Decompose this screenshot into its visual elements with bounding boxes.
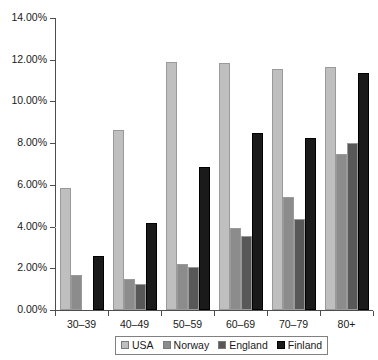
bar xyxy=(336,154,347,310)
legend: USANorwayEnglandFinland xyxy=(115,336,328,355)
y-axis-tick-label: 12.00% xyxy=(3,54,47,65)
plot-area xyxy=(55,18,373,310)
x-axis-tick xyxy=(108,311,109,316)
bar xyxy=(71,275,82,310)
x-axis-tick xyxy=(267,311,268,316)
x-axis-tick-label: 80+ xyxy=(320,318,373,330)
x-axis-tick-label: 70–79 xyxy=(267,318,320,330)
bar xyxy=(230,228,241,310)
y-axis-tick-label: 8.00% xyxy=(3,137,47,148)
bar xyxy=(272,69,283,310)
legend-label: Finland xyxy=(288,339,322,351)
bar xyxy=(347,143,358,310)
bar xyxy=(177,264,188,310)
bar xyxy=(124,279,135,310)
bar xyxy=(325,67,336,310)
legend-label: England xyxy=(229,339,268,351)
legend-item: England xyxy=(218,339,268,351)
bar xyxy=(305,138,316,310)
x-axis-tick xyxy=(320,311,321,316)
bar xyxy=(113,130,124,310)
bar xyxy=(188,267,199,310)
legend-item: Norway xyxy=(163,339,210,351)
x-axis-tick xyxy=(373,311,374,316)
bar-chart: 0.00%2.00%4.00%6.00%8.00%10.00%12.00%14.… xyxy=(0,0,378,360)
x-axis-tick xyxy=(161,311,162,316)
x-axis-tick-label: 50–59 xyxy=(161,318,214,330)
legend-swatch-icon xyxy=(277,341,285,349)
legend-swatch-icon xyxy=(218,341,226,349)
y-axis-tick-label: 6.00% xyxy=(3,179,47,190)
x-axis-tick xyxy=(214,311,215,316)
bar xyxy=(135,284,146,310)
y-axis-tick-label: 4.00% xyxy=(3,221,47,232)
bar xyxy=(252,133,263,310)
bar xyxy=(199,167,210,310)
bar xyxy=(294,219,305,310)
legend-swatch-icon xyxy=(163,341,171,349)
x-axis-tick-label: 30–39 xyxy=(55,318,108,330)
bar xyxy=(283,197,294,310)
legend-item: USA xyxy=(121,339,154,351)
legend-label: USA xyxy=(132,339,154,351)
y-axis-tick-label: 10.00% xyxy=(3,95,47,106)
bar xyxy=(241,236,252,310)
bar xyxy=(146,223,157,310)
bar xyxy=(93,256,104,310)
y-axis-tick-label: 2.00% xyxy=(3,262,47,273)
bar xyxy=(60,188,71,310)
x-axis-tick-label: 60–69 xyxy=(214,318,267,330)
legend-label: Norway xyxy=(174,339,210,351)
y-axis-tick-label: 0.00% xyxy=(3,304,47,315)
bar xyxy=(219,63,230,310)
legend-swatch-icon xyxy=(121,341,129,349)
legend-item: Finland xyxy=(277,339,322,351)
y-axis-tick-label: 14.00% xyxy=(3,12,47,23)
x-axis-tick-label: 40–49 xyxy=(108,318,161,330)
bar xyxy=(166,62,177,310)
x-axis-tick xyxy=(55,311,56,316)
bar xyxy=(358,73,369,310)
